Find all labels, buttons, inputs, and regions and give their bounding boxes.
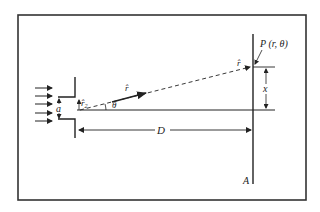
diffraction-diagram: a r̂2 r̂ θ r̂ A P (r, θ) x D	[0, 0, 320, 212]
theta-label: θ	[112, 100, 117, 110]
r-hat-screen-label: r̂	[237, 58, 241, 68]
r-hat-vector	[112, 93, 146, 102]
slit-width-label: a	[56, 103, 61, 114]
incoming-wave-arrows	[35, 88, 52, 121]
point-p-label: P (r, θ)	[259, 38, 288, 50]
ray-to-point	[80, 67, 250, 110]
point-p-pointer	[255, 50, 262, 64]
theta-arc	[105, 104, 106, 110]
distance-label: D	[156, 124, 165, 136]
screen-label: A	[242, 175, 250, 186]
r-hat-label: r̂	[125, 83, 129, 93]
r2-label: r̂2	[81, 98, 88, 109]
x-label: x	[262, 83, 268, 94]
